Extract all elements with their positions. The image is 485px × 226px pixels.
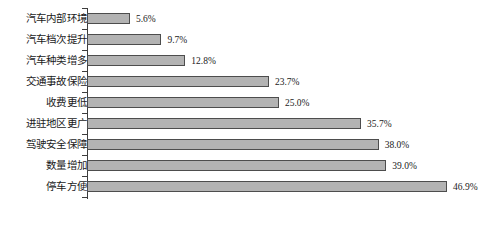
- bar-value-label: 39.0%: [392, 155, 417, 176]
- bar-track: 5.6%: [87, 8, 485, 29]
- horizontal-bar-chart: 汽车内部环境5.6%汽车档次提升9.7%汽车种类增多12.8%交通事故保险23.…: [0, 0, 485, 226]
- bar-rows-container: 汽车内部环境5.6%汽车档次提升9.7%汽车种类增多12.8%交通事故保险23.…: [0, 8, 485, 197]
- bar-value-label: 5.6%: [136, 8, 156, 29]
- bar-track: 46.9%: [87, 176, 485, 197]
- bar-value-label: 9.7%: [167, 29, 187, 50]
- bar-track: 9.7%: [87, 29, 485, 50]
- y-axis-tick: [82, 50, 87, 51]
- category-label: 汽车种类增多: [3, 50, 87, 71]
- y-axis-tick: [82, 134, 87, 135]
- category-label: 收费更低: [3, 92, 87, 113]
- y-axis-tick: [82, 71, 87, 72]
- y-axis-tick: [82, 155, 87, 156]
- bar-track: 25.0%: [87, 92, 485, 113]
- category-label: 数量增加: [3, 155, 87, 176]
- bar-row: 停车方便46.9%: [0, 176, 485, 197]
- bar: [87, 55, 185, 66]
- y-axis-tick: [82, 197, 87, 198]
- bar-value-label: 12.8%: [191, 50, 216, 71]
- bar: [87, 139, 379, 150]
- bar-value-label: 23.7%: [275, 71, 300, 92]
- bar: [87, 97, 279, 108]
- y-axis-tick: [82, 8, 87, 9]
- category-label: 停车方便: [3, 176, 87, 197]
- category-label: 汽车档次提升: [3, 29, 87, 50]
- bar: [87, 34, 161, 45]
- y-axis-tick: [82, 29, 87, 30]
- bar-row: 交通事故保险23.7%: [0, 71, 485, 92]
- category-label: 汽车内部环境: [3, 8, 87, 29]
- bar-value-label: 46.9%: [453, 176, 478, 197]
- bar-track: 23.7%: [87, 71, 485, 92]
- bar-value-label: 38.0%: [385, 134, 410, 155]
- y-axis-tick: [82, 113, 87, 114]
- bar-row: 进驻地区更广35.7%: [0, 113, 485, 134]
- bar-track: 12.8%: [87, 50, 485, 71]
- y-axis-tick: [82, 176, 87, 177]
- category-label: 进驻地区更广: [3, 113, 87, 134]
- bar-track: 39.0%: [87, 155, 485, 176]
- bar-row: 汽车种类增多12.8%: [0, 50, 485, 71]
- bar-row: 驾驶安全保障38.0%: [0, 134, 485, 155]
- bar-value-label: 35.7%: [367, 113, 392, 134]
- bar-track: 35.7%: [87, 113, 485, 134]
- y-axis-tick: [82, 92, 87, 93]
- bar-row: 收费更低25.0%: [0, 92, 485, 113]
- bar: [87, 13, 130, 24]
- bar-row: 汽车档次提升9.7%: [0, 29, 485, 50]
- bar: [87, 76, 269, 87]
- bar-row: 汽车内部环境5.6%: [0, 8, 485, 29]
- bar: [87, 181, 447, 192]
- bar-track: 38.0%: [87, 134, 485, 155]
- bar: [87, 118, 361, 129]
- category-label: 交通事故保险: [3, 71, 87, 92]
- bar-row: 数量增加39.0%: [0, 155, 485, 176]
- bar-value-label: 25.0%: [285, 92, 310, 113]
- category-label: 驾驶安全保障: [3, 134, 87, 155]
- bar: [87, 160, 386, 171]
